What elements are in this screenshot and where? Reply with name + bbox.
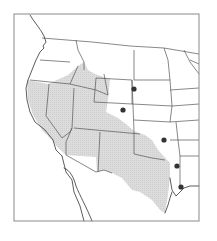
range-map — [0, 0, 217, 241]
occurrence-dot — [178, 184, 183, 189]
occurrence-dot — [120, 107, 125, 112]
occurrence-dot — [174, 163, 179, 168]
occurrence-dot — [161, 137, 166, 142]
occurrence-dot — [131, 86, 136, 91]
